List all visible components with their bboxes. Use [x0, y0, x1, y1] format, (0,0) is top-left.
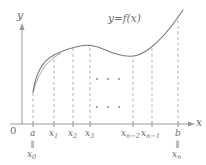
- ellipsis-row-lower: [96, 106, 120, 108]
- tick-b-equals-symbol: ∥: [176, 141, 180, 149]
- tick-label-b: b: [175, 129, 181, 138]
- ellipsis-dot: [107, 106, 109, 108]
- function-label: y=f(x): [108, 13, 141, 24]
- tick-label-xn-2-sub: n−2: [126, 132, 140, 140]
- tick-label-xn-2: xn−2: [121, 129, 140, 138]
- tick-label-b-text: b: [175, 128, 181, 138]
- tick-label-x3: x3: [85, 129, 94, 138]
- partition-dashed-lines: [33, 18, 178, 124]
- tick-label-a: a: [30, 129, 35, 138]
- ellipsis-dot: [118, 78, 120, 80]
- origin-label: 0: [10, 126, 16, 136]
- tick-label-x1-sub: 1: [54, 132, 58, 140]
- y-axis-label: y: [17, 10, 23, 21]
- tick-label-x1: x1: [49, 129, 58, 138]
- secant-arc: [33, 53, 61, 93]
- tick-label-x2: x2: [68, 129, 77, 138]
- tick-a-equals-symbol: ∥: [31, 141, 35, 149]
- tick-label-xn-sub: n: [177, 153, 181, 161]
- x-axis: [10, 121, 195, 126]
- tick-label-xn-1-sub: n−1: [146, 132, 160, 140]
- tick-label-x0-sub: 0: [32, 153, 36, 161]
- tick-label-x2-sub: 2: [73, 132, 77, 140]
- tick-label-xn: xn: [172, 150, 181, 159]
- ellipsis-row-upper: [96, 78, 120, 80]
- tick-label-xn-1: xn−1: [141, 129, 160, 138]
- ellipsis-dot: [96, 106, 98, 108]
- ellipsis-dot: [96, 78, 98, 80]
- ellipsis-dot: [118, 106, 120, 108]
- integral-partition-figure: y x 0 y=f(x) a ∥ x0 x1 x2 x3 xn−2 xn−1 b…: [0, 0, 206, 165]
- x-axis-label: x: [196, 117, 202, 128]
- y-axis: [19, 23, 24, 124]
- tick-label-a-text: a: [30, 128, 35, 138]
- tick-label-x0: x0: [27, 150, 36, 159]
- ellipsis-dot: [107, 78, 109, 80]
- tick-label-x3-sub: 3: [90, 132, 94, 140]
